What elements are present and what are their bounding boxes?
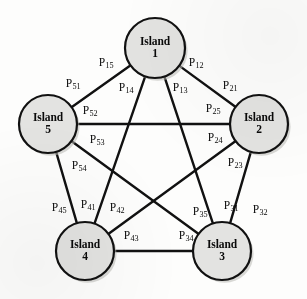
edge-n1-n3 [164, 76, 213, 225]
edge-n4-n5 [56, 151, 77, 224]
node-circle-n2[interactable] [230, 95, 288, 153]
node-circle-n3[interactable] [193, 222, 251, 280]
edge-n3-n5 [71, 141, 200, 235]
edge-n2-n3 [230, 151, 251, 224]
edge-n1-n2 [178, 65, 236, 107]
edge-n2-n4 [108, 141, 237, 235]
node-circle-n5[interactable] [19, 95, 77, 153]
diagram-canvas: Island1Island2Island3Island4Island5 P15P… [0, 0, 307, 299]
network-graph [0, 0, 307, 299]
nodes-layer [19, 18, 291, 283]
node-circle-n1[interactable] [125, 18, 185, 78]
node-circle-n4[interactable] [56, 222, 114, 280]
edge-n1-n4 [94, 75, 145, 224]
edge-n1-n5 [71, 65, 132, 108]
